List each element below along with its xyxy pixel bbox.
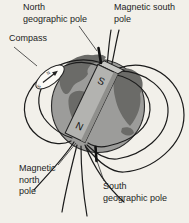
field-line-bottom-3 [81,146,87,216]
pointer-north-geographic [79,26,97,51]
south-axis-tick [96,147,97,161]
label-north-geographic-pole: North geographic pole [23,2,87,25]
label-magnetic-north-pole: Magnetic north pole [19,163,56,198]
label-compass: Compass [9,33,47,45]
pointer-compass [14,47,37,66]
label-south-geographic-pole: South geographic pole [103,181,167,204]
earth-magnetic-field-figure: S N S N North geographic pole Magnetic s… [0,0,189,223]
label-magnetic-south-pole: Magnetic south pole [114,2,175,25]
